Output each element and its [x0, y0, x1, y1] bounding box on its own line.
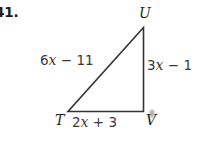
- side-uv-variable: x: [156, 57, 164, 73]
- side-tv-variable: x: [81, 114, 89, 130]
- side-tu-constant: − 11: [57, 52, 94, 68]
- side-tu-variable: x: [49, 52, 57, 68]
- triangle-outline: [68, 28, 144, 112]
- side-label-tv: 2x + 3: [72, 115, 117, 130]
- side-tu-coefficient: 6: [40, 52, 49, 68]
- side-uv-constant: − 1: [164, 57, 192, 73]
- side-label-tu: 6x − 11: [40, 53, 94, 68]
- side-tv-coefficient: 2: [72, 114, 81, 130]
- vertex-label-t: T: [55, 113, 64, 127]
- vertex-label-u: U: [139, 6, 151, 20]
- side-uv-coefficient: 3: [147, 57, 156, 73]
- side-tv-constant: + 3: [89, 114, 117, 130]
- worksheet-problem-figure: 41. U T V 6x − 11 3x − 1 2x + 3: [0, 0, 205, 141]
- scan-artifact: [150, 110, 154, 117]
- side-label-uv: 3x − 1: [147, 58, 192, 73]
